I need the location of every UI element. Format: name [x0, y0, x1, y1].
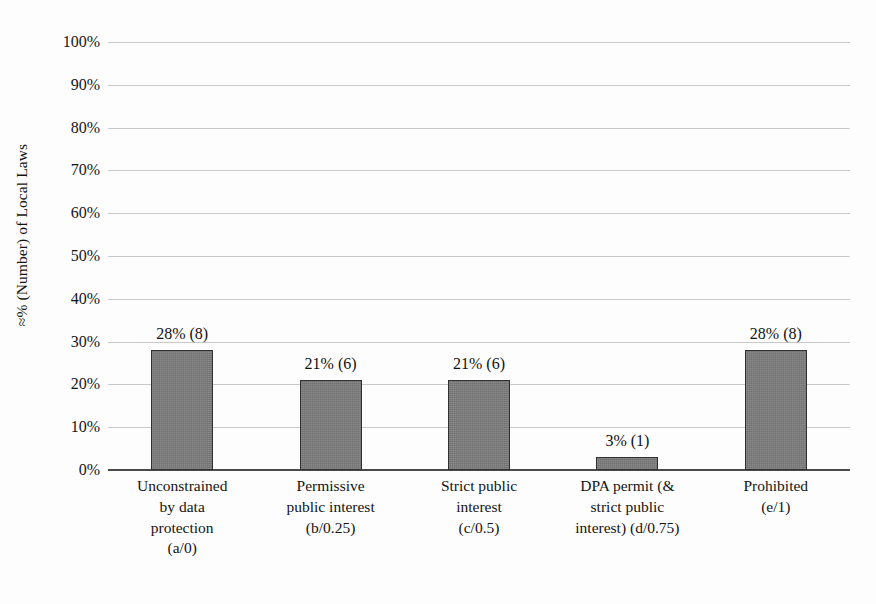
gridline	[108, 299, 850, 300]
gridline	[108, 342, 850, 343]
y-axis-tick-label: 30%	[38, 333, 100, 351]
bar-chart: ≈% (Number) of Local Laws 0%10%20%30%40%…	[0, 0, 876, 604]
bar	[745, 350, 807, 470]
x-axis-category-line: Permissive	[246, 476, 414, 497]
x-axis-category-line: (c/0.5)	[395, 518, 563, 539]
bar	[300, 380, 362, 470]
plot-area: 28% (8)21% (6)21% (6)3% (1)28% (8)	[108, 42, 850, 470]
y-axis-tick-label: 50%	[38, 247, 100, 265]
bar-value-label: 3% (1)	[605, 432, 649, 450]
bar-value-label: 28% (8)	[750, 325, 802, 343]
x-axis-labels: Unconstrainedby dataprotection(a/0)Permi…	[108, 476, 850, 596]
y-axis-tick-label: 70%	[38, 161, 100, 179]
gridline	[108, 128, 850, 129]
x-axis-category-label: Unconstrainedby dataprotection(a/0)	[98, 476, 266, 559]
x-axis-category-line: Strict public	[395, 476, 563, 497]
x-axis-category-label: DPA permit (&strict publicinterest) (d/0…	[543, 476, 711, 538]
x-axis-category-label: Permissivepublic interest(b/0.25)	[246, 476, 414, 538]
y-axis-tick-labels: 0%10%20%30%40%50%60%70%80%90%100%	[38, 42, 100, 470]
y-axis-title-text: ≈% (Number) of Local Laws	[13, 144, 31, 326]
x-axis-category-line: (a/0)	[98, 538, 266, 559]
bar	[448, 380, 510, 470]
gridline	[108, 213, 850, 214]
x-axis-category-line: (e/1)	[692, 497, 860, 518]
x-axis-category-line: Unconstrained	[98, 476, 266, 497]
x-axis-category-line: interest) (d/0.75)	[543, 518, 711, 539]
x-axis-category-line: public interest	[246, 497, 414, 518]
gridline	[108, 85, 850, 86]
x-axis-category-label: Prohibited(e/1)	[692, 476, 860, 518]
x-axis-category-line: by data	[98, 497, 266, 518]
y-axis-tick-label: 80%	[38, 119, 100, 137]
y-axis-tick-label: 10%	[38, 418, 100, 436]
y-axis-tick-label: 90%	[38, 76, 100, 94]
x-axis-category-line: DPA permit (&	[543, 476, 711, 497]
gridline	[108, 42, 850, 43]
bar	[596, 457, 658, 470]
bar-value-label: 28% (8)	[156, 325, 208, 343]
y-axis-tick-label: 40%	[38, 290, 100, 308]
y-axis-tick-label: 100%	[38, 33, 100, 51]
gridline	[108, 170, 850, 171]
x-axis-category-line: Prohibited	[692, 476, 860, 497]
x-axis-category-line: (b/0.25)	[246, 518, 414, 539]
x-axis-category-line: interest	[395, 497, 563, 518]
y-axis-tick-label: 60%	[38, 204, 100, 222]
bar-value-label: 21% (6)	[453, 355, 505, 373]
x-axis-category-label: Strict publicinterest(c/0.5)	[395, 476, 563, 538]
x-axis-category-line: strict public	[543, 497, 711, 518]
gridline	[108, 256, 850, 257]
y-axis-tick-label: 20%	[38, 375, 100, 393]
y-axis-tick-label: 0%	[38, 461, 100, 479]
bar-value-label: 21% (6)	[305, 355, 357, 373]
bar	[151, 350, 213, 470]
x-axis-category-line: protection	[98, 518, 266, 539]
